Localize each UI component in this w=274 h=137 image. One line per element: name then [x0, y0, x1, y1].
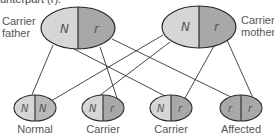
child-1-allele-1: N	[21, 103, 29, 114]
child-2-label: Carrier	[73, 123, 133, 135]
child-3-label: Carrier	[141, 123, 201, 135]
child-4-genotype: r r	[219, 94, 263, 122]
mother-allele-1: N	[181, 20, 190, 34]
line-mother-child3	[185, 46, 214, 98]
line-mother-child4	[227, 40, 253, 98]
child-1-genotype: N N	[13, 94, 57, 122]
inheritance-diagram: N r N r N N N r	[0, 0, 274, 137]
child-3-allele-1: N	[157, 103, 165, 114]
father-allele-1: N	[60, 22, 69, 36]
child-2-allele-1: N	[89, 103, 97, 114]
child-1-label: Normal	[5, 123, 65, 135]
child-3-genotype: N r	[149, 94, 193, 122]
father-genotype: N r	[40, 6, 116, 50]
child-2-genotype: N r	[81, 94, 125, 122]
child-4-label: Affected	[211, 123, 271, 135]
child-1-allele-2: N	[39, 103, 47, 114]
line-father-child2	[100, 47, 117, 98]
line-father-child4	[112, 39, 233, 98]
mother-genotype: N r	[161, 5, 237, 49]
line-father-child1	[31, 45, 53, 97]
